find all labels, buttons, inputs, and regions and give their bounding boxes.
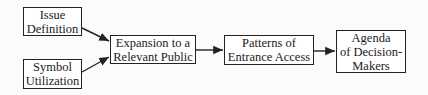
node-label-line: Agenda [352, 31, 391, 45]
node-label-line: of Decision- [340, 45, 402, 59]
node-expansion-to-relevant-public: Expansion to a Relevant Public [110, 35, 196, 64]
node-label-line: Relevant Public [113, 50, 193, 64]
node-issue-definition: Issue Definition [23, 7, 82, 36]
node-label-line: Definition [27, 22, 78, 36]
node-patterns-of-entrance-access: Patterns of Entrance Access [224, 35, 314, 65]
node-label-line: Expansion to a [116, 36, 190, 50]
arrow-symbol-to-expansion [82, 57, 109, 72]
node-label-line: Entrance Access [228, 50, 310, 64]
node-label-line: Issue [40, 8, 66, 22]
node-agenda-of-decision-makers: Agenda of Decision- Makers [336, 30, 406, 73]
node-label-line: Makers [352, 59, 390, 73]
arrow-issue-to-expansion [82, 28, 109, 41]
node-label-line: Utilization [26, 74, 79, 88]
node-label-line: Patterns of [242, 36, 296, 50]
node-symbol-utilization: Symbol Utilization [23, 59, 82, 89]
node-label-line: Symbol [33, 60, 72, 74]
